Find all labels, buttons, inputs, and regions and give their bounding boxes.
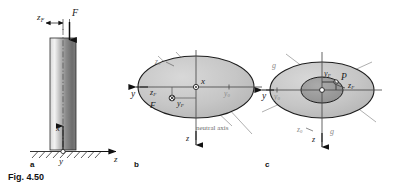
- label-eccentricity-zf: zF: [37, 13, 44, 23]
- figure-caption: Fig. 4.50: [8, 172, 44, 182]
- panel-label-b: b: [134, 160, 139, 169]
- label-panel-b-z: z: [186, 135, 189, 143]
- panel-c-centroid-marker: [320, 88, 325, 93]
- label-panel-a-z: z: [114, 155, 118, 164]
- label-panel-b-yf: yF: [177, 100, 184, 109]
- figure-4-50: zF F x y z a z0 x y y0 zF F yF neutral a…: [0, 0, 406, 188]
- label-panel-c-z: z: [312, 136, 315, 144]
- label-neutral-axis: neutral axis: [196, 124, 228, 132]
- panel-label-c: c: [265, 160, 269, 169]
- label-panel-b-x: x: [201, 77, 205, 86]
- label-panel-b-y: y: [131, 90, 135, 100]
- panel-b-centroid-dot: [195, 86, 197, 88]
- panel-a-graphics: [30, 19, 116, 158]
- label-panel-c-z0: z0: [297, 126, 302, 135]
- label-panel-a-x: x: [56, 124, 60, 133]
- panel-c-z0-tick: [306, 128, 313, 131]
- label-panel-b-y0: y0: [224, 90, 230, 99]
- label-panel-c-zf: zF: [348, 82, 354, 91]
- label-panel-c-g-left: g: [272, 62, 276, 70]
- label-panel-b-z0: z0: [155, 58, 160, 67]
- label-force-F: F: [72, 8, 78, 18]
- label-panel-c-g-right: g: [330, 128, 334, 136]
- panel-label-a: a: [30, 160, 34, 169]
- ground-hatching: [32, 152, 101, 159]
- label-panel-c-yf: yF: [324, 70, 331, 79]
- label-panel-b-zf: zF: [150, 89, 156, 98]
- label-panel-b-F: F: [150, 101, 156, 110]
- label-panel-c-y0: y0: [274, 93, 280, 102]
- label-panel-c-y: y: [262, 92, 266, 102]
- label-panel-a-y: y: [59, 157, 63, 166]
- label-panel-c-P: P: [341, 73, 347, 83]
- panel-a-origin-marker: [61, 149, 65, 153]
- panel-c-graphics: [262, 52, 382, 147]
